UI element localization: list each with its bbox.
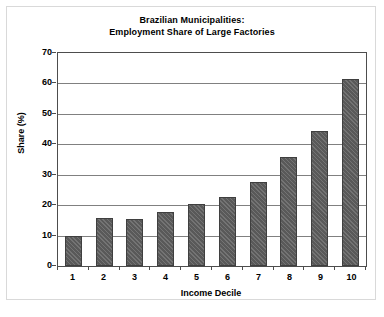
x-axis-tick-label: 3 [126,272,143,282]
y-axis-label: Share (%) [16,103,26,163]
x-axis-tick-mark [211,266,212,270]
y-axis-tick-mark [52,82,56,83]
bar [342,79,359,266]
chart-title-line-1: Brazilian Municipalities: [0,14,384,26]
x-axis-tick-label: 6 [219,272,236,282]
y-axis-tick-label: 20 [12,200,52,209]
x-axis-tick-mark [303,266,304,270]
bar [250,182,267,266]
y-axis-tick-labels: 010203040506070 [8,0,52,317]
y-axis-tick-label: 10 [12,231,52,240]
y-axis-tick-label: 30 [12,170,52,179]
x-axis-tick-mark [57,266,58,270]
y-axis-tick-mark [52,174,56,175]
x-axis-tick-mark [88,266,89,270]
x-axis-tick-marks [57,266,367,271]
x-axis-tick-labels: 12345678910 [57,272,367,282]
bar [96,218,113,266]
x-axis-tick-mark [242,266,243,270]
x-axis-tick-mark [180,266,181,270]
y-axis-tick-mark [52,204,56,205]
bar [126,219,143,266]
x-axis-tick-label: 5 [188,272,205,282]
x-axis-tick-label: 10 [343,272,360,282]
y-axis-tick-mark [52,143,56,144]
y-axis-tick-mark [52,52,56,53]
bar [157,212,174,266]
y-axis-tick-label: 60 [12,78,52,87]
chart-figure: Brazilian Municipalities: Employment Sha… [0,0,384,317]
x-axis-tick-label: 7 [250,272,267,282]
x-axis-tick-mark [273,266,274,270]
x-axis-tick-mark [334,266,335,270]
bar [65,236,82,266]
x-axis-tick-label: 4 [157,272,174,282]
x-axis-tick-mark [149,266,150,270]
bar [280,157,297,266]
y-axis-tick-mark [52,265,56,266]
x-axis-tick-label: 9 [312,272,329,282]
y-axis-tick-label: 70 [12,48,52,57]
bar [311,131,328,266]
x-axis-tick-label: 1 [64,272,81,282]
y-axis-tick-mark [52,113,56,114]
chart-title: Brazilian Municipalities: Employment Sha… [0,14,384,38]
plot-area [57,52,367,267]
x-axis-tick-mark [119,266,120,270]
x-axis-tick-label: 8 [281,272,298,282]
y-axis-tick-mark [52,235,56,236]
chart-title-line-2: Employment Share of Large Factories [0,26,384,38]
x-axis-tick-mark [365,266,366,270]
bar [219,197,236,266]
y-axis-tick-label: 0 [12,261,52,270]
bar [188,204,205,266]
x-axis-label: Income Decile [57,288,365,298]
x-axis-tick-label: 2 [95,272,112,282]
bar-series [58,53,366,266]
